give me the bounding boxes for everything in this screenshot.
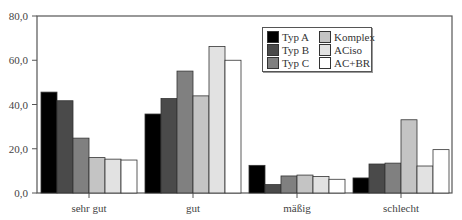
legend: Typ A Typ B Typ C Komplex ACiso AC+BR bbox=[262, 27, 372, 72]
legend-item-ac-br: AC+BR bbox=[319, 57, 370, 69]
bars bbox=[41, 47, 449, 193]
bar bbox=[225, 60, 241, 193]
legend-item-typ-a: Typ A bbox=[267, 31, 309, 43]
bar bbox=[353, 178, 369, 193]
bar bbox=[313, 176, 329, 193]
legend-label: Typ A bbox=[282, 31, 309, 43]
y-tick-label: 0,0 bbox=[14, 187, 28, 199]
bar bbox=[329, 179, 345, 193]
y-axis: 0,020,040,060,080,0 bbox=[9, 10, 37, 199]
legend-swatch bbox=[319, 44, 331, 56]
bar bbox=[401, 120, 417, 193]
x-tick-label: sehr gut bbox=[71, 202, 106, 214]
bar bbox=[249, 165, 265, 193]
legend-swatch bbox=[267, 31, 279, 43]
bar bbox=[369, 164, 385, 193]
x-tick-label: schlecht bbox=[383, 202, 419, 214]
bar bbox=[385, 163, 401, 193]
legend-item-komplex: Komplex bbox=[319, 31, 375, 43]
y-tick-label: 80,0 bbox=[9, 10, 29, 22]
bar bbox=[209, 47, 225, 193]
legend-item-aciso: ACiso bbox=[319, 44, 362, 56]
y-tick-label: 60,0 bbox=[9, 54, 29, 66]
legend-swatch bbox=[267, 44, 279, 56]
bar bbox=[41, 92, 57, 193]
y-tick-label: 40,0 bbox=[9, 99, 29, 111]
bar-chart: 0,020,040,060,080,0 sehr gutgutmäßigschl… bbox=[0, 0, 462, 220]
bar bbox=[73, 138, 89, 193]
legend-swatch bbox=[319, 57, 331, 69]
x-axis: sehr gutgutmäßigschlecht bbox=[71, 193, 419, 214]
legend-label: Typ C bbox=[282, 57, 309, 69]
bar bbox=[297, 175, 313, 193]
legend-swatch bbox=[267, 57, 279, 69]
legend-label: AC+BR bbox=[334, 57, 370, 69]
bar bbox=[89, 158, 105, 193]
x-tick-label: gut bbox=[186, 202, 200, 214]
legend-item-typ-c: Typ C bbox=[267, 57, 309, 69]
bar bbox=[121, 160, 137, 193]
x-tick-label: mäßig bbox=[283, 202, 311, 214]
bar bbox=[177, 71, 193, 193]
y-tick-label: 20,0 bbox=[9, 143, 29, 155]
legend-item-typ-b: Typ B bbox=[267, 44, 309, 56]
bar bbox=[433, 150, 449, 193]
legend-swatch bbox=[319, 31, 331, 43]
bar bbox=[161, 99, 177, 193]
bar bbox=[417, 166, 433, 193]
legend-label: ACiso bbox=[334, 44, 362, 56]
legend-label: Typ B bbox=[282, 44, 309, 56]
bar bbox=[193, 96, 209, 193]
bar bbox=[105, 159, 121, 193]
legend-label: Komplex bbox=[334, 31, 375, 43]
bar bbox=[57, 101, 73, 193]
bar bbox=[265, 185, 281, 193]
bar bbox=[145, 114, 161, 193]
bar bbox=[281, 176, 297, 193]
